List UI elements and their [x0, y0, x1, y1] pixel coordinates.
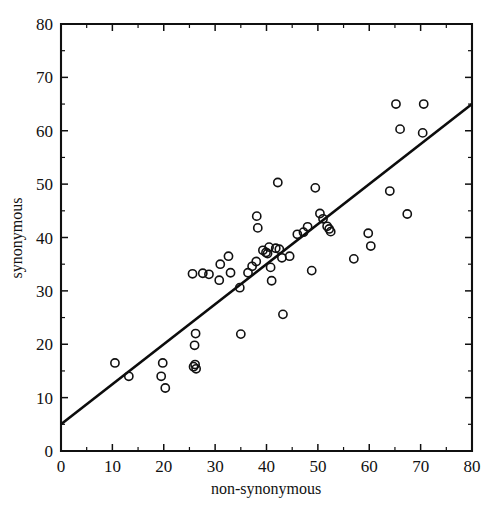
data-point — [308, 266, 316, 274]
x-tick-label: 70 — [412, 457, 429, 476]
data-point — [392, 100, 400, 108]
y-tick-label: 30 — [36, 282, 53, 301]
y-tick-label: 50 — [36, 175, 53, 194]
y-tick-label: 20 — [36, 335, 53, 354]
data-point — [268, 277, 276, 285]
y-tick-label: 60 — [36, 122, 53, 141]
data-point — [226, 269, 234, 277]
y-tick-label: 70 — [36, 68, 53, 87]
data-point — [350, 255, 358, 263]
x-tick-label: 30 — [207, 457, 224, 476]
data-point — [237, 330, 245, 338]
axis-box — [61, 24, 472, 451]
data-point — [420, 100, 428, 108]
data-point — [125, 372, 133, 380]
x-tick-label: 10 — [104, 457, 121, 476]
y-tick-label: 80 — [36, 15, 53, 34]
data-point — [192, 329, 200, 337]
data-point — [190, 341, 198, 349]
fit-line — [61, 104, 472, 424]
regression-line — [61, 104, 472, 424]
y-tick-labels: 01020304050607080 — [36, 15, 53, 461]
y-tick-label: 0 — [45, 442, 54, 461]
scatter-plot-figure: 01020304050607080 01020304050607080 non-… — [0, 0, 498, 515]
data-point — [224, 252, 232, 260]
data-point — [403, 210, 411, 218]
data-point — [188, 270, 196, 278]
data-point — [216, 260, 224, 268]
data-point — [367, 242, 375, 250]
data-point — [267, 263, 275, 271]
data-point — [111, 359, 119, 367]
data-point — [419, 129, 427, 137]
data-point — [279, 310, 287, 318]
y-tick-label: 10 — [36, 389, 53, 408]
data-point — [311, 184, 319, 192]
data-point — [274, 178, 282, 186]
tick-marks — [61, 24, 472, 451]
x-tick-labels: 01020304050607080 — [57, 457, 481, 476]
data-point — [386, 187, 394, 195]
x-tick-label: 0 — [57, 457, 66, 476]
axis-frame — [61, 24, 472, 451]
data-point — [159, 359, 167, 367]
x-tick-label: 80 — [464, 457, 481, 476]
x-tick-label: 50 — [309, 457, 326, 476]
data-point — [161, 384, 169, 392]
x-tick-label: 20 — [155, 457, 172, 476]
data-point — [286, 252, 294, 260]
data-point — [157, 372, 165, 380]
x-tick-label: 40 — [258, 457, 275, 476]
data-point — [215, 276, 223, 284]
plot-canvas: 01020304050607080 01020304050607080 non-… — [0, 0, 498, 515]
y-axis-title: synonymous — [8, 198, 26, 279]
data-point — [253, 212, 261, 220]
x-axis-title: non-synonymous — [211, 480, 321, 498]
data-point — [254, 224, 262, 232]
data-point — [364, 229, 372, 237]
data-point — [278, 254, 286, 262]
y-tick-label: 40 — [36, 229, 53, 248]
data-point — [396, 125, 404, 133]
x-tick-label: 60 — [361, 457, 378, 476]
